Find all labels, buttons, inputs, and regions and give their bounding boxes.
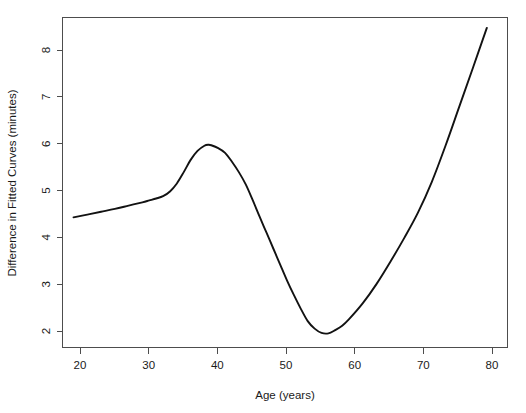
chart-figure: 2 3 4 5 6 7 8 20 30 40 50 60 70 80 [0, 0, 526, 413]
x-tick-label-60: 60 [348, 359, 361, 371]
y-tick-label-6: 6 [40, 140, 52, 146]
x-tick-label-50: 50 [280, 359, 293, 371]
plot-svg: 2 3 4 5 6 7 8 20 30 40 50 60 70 80 [0, 0, 526, 413]
x-axis-title: Age (years) [255, 389, 315, 401]
y-tick-label-8: 8 [40, 47, 52, 53]
y-tick-label-7: 7 [40, 94, 52, 100]
x-tick-label-80: 80 [486, 359, 499, 371]
y-tick-label-5: 5 [40, 187, 52, 193]
y-tick-label-4: 4 [40, 234, 52, 241]
x-tick-label-20: 20 [74, 359, 87, 371]
y-tick-label-3: 3 [40, 281, 52, 287]
x-tick-label-30: 30 [142, 359, 155, 371]
figure-background [0, 0, 526, 413]
x-tick-label-40: 40 [211, 359, 224, 371]
y-tick-label-2: 2 [40, 328, 52, 334]
x-tick-label-70: 70 [417, 359, 430, 371]
y-axis-title: Difference in Fitted Curves (minutes) [6, 89, 18, 276]
